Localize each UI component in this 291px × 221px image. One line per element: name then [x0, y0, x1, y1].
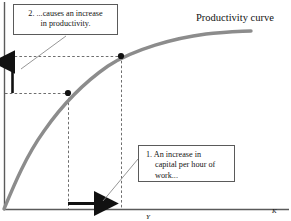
callout-capital-increase: 1. An increase in capital per hour of wo…: [138, 145, 235, 182]
callout-2-leader-line: [21, 36, 66, 69]
callout-2-line-2: in productivity.: [18, 19, 113, 29]
callout-productivity-increase: 2. ...causes an increase in productivity…: [13, 4, 118, 35]
productivity-curve-label: Productivity curve: [196, 12, 274, 24]
callout-1-leader-line: [103, 159, 138, 201]
y-axis-label: Y: [146, 213, 150, 221]
callout-1-line-3: work...: [146, 171, 231, 181]
final-point-marker: [118, 53, 124, 59]
guide-lines-group: [5, 56, 122, 209]
productivity-curve-figure: 2. ...causes an increase in productivity…: [0, 0, 291, 221]
callout-1-line-2: capital per hour of: [146, 160, 231, 170]
initial-point-marker: [65, 90, 71, 96]
callout-2-line-1: 2. ...causes an increase: [18, 9, 113, 19]
productivity-curve-path: [4, 31, 251, 209]
callout-1-line-1: 1. An increase in: [146, 150, 231, 160]
x-axis-label: K: [272, 207, 277, 215]
